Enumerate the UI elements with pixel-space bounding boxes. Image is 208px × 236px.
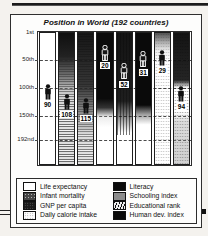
legend-item: Daily calorie intake [23,211,106,220]
legend-item: Infant mortality [23,192,106,201]
legend-swatch-educational-rank [113,201,126,210]
rank-marker: 52 [117,63,132,89]
axis-tick-label: 50th [11,56,34,63]
axis-tick-label: 192nd [11,136,34,143]
legend-label: Educational rank [130,202,181,210]
axis-tick-label: 100th [11,84,34,91]
column-infant-mortality: 108 [58,32,75,165]
rank-value-label: 52 [118,80,129,89]
axis-tick-label: 150th [11,112,34,119]
rank-marker: 115 [78,98,93,122]
rank-value-label: 108 [60,111,73,118]
legend-label: Infant mortality [40,192,85,200]
chart-title: Position in World (192 countries) [11,18,201,27]
legend-swatch-human-dev-index [113,211,126,220]
legend-label: Life expectancy [40,183,87,191]
rank-marker: 108 [59,94,74,118]
column-human-dev-index: 94 [173,32,190,165]
column-gnp-per-capita: 115 [77,32,94,165]
chart-panel: Position in World (192 countries) 1st 50… [10,14,202,228]
column-daily-calorie-intake: 20 [96,32,113,165]
legend-column-right: Literacy Schooling index Educational ran… [107,179,197,223]
legend-item: Educational rank [113,201,196,210]
person-icon [100,45,110,61]
legend: Life expectancy Infant mortality GNP per… [16,178,197,224]
person-icon [176,86,186,102]
page-divider-rule [12,3,208,6]
legend-label: Daily calorie intake [40,211,97,219]
rank-value-label: 90 [43,101,52,108]
rank-value-label: 94 [177,103,186,110]
legend-label: GNP per capita [40,202,86,210]
column-life-expectancy: 90 [39,32,56,165]
indicator-columns: 90 108 115 [38,32,191,165]
legend-item: Literacy [113,182,196,191]
rank-marker: 29 [155,50,170,74]
column-educational-rank: 29 [154,32,171,165]
legend-swatch-schooling-index [113,192,126,201]
rank-value-label: 31 [138,68,149,77]
rank-marker: 20 [97,45,112,69]
legend-swatch-literacy [113,182,126,191]
legend-column-left: Life expectancy Infant mortality GNP per… [17,179,107,223]
legend-item: GNP per capita [23,201,106,210]
person-icon [138,51,148,67]
legend-swatch-life-expectancy [23,182,36,191]
column-schooling-index: 31 [135,32,152,165]
person-icon [157,50,167,66]
legend-swatch-infant-mortality [23,192,36,201]
scanned-chart-page: Position in World (192 countries) 1st 50… [0,0,208,236]
legend-item: Human dev. index [113,211,196,220]
axis-tick-label: 1st [11,29,34,36]
legend-item: Life expectancy [23,182,106,191]
plot-area: 90 108 115 [37,31,192,166]
person-icon [119,63,129,79]
legend-swatch-gnp-per-capita [23,201,36,210]
legend-item: Schooling index [113,192,196,201]
rank-value-label: 20 [100,62,109,69]
rank-marker: 94 [174,86,189,110]
rank-marker: 31 [136,51,151,77]
legend-label: Literacy [130,183,154,191]
rank-value-label: 115 [80,115,93,122]
person-icon [62,94,72,110]
legend-label: Schooling index [130,192,178,200]
person-icon [81,98,91,114]
rank-marker: 90 [40,84,55,108]
column-literacy: 52 [116,32,133,165]
legend-swatch-daily-calorie-intake [23,211,36,220]
rank-value-label: 29 [158,67,167,74]
legend-label: Human dev. index [130,211,184,219]
person-icon [43,84,53,100]
